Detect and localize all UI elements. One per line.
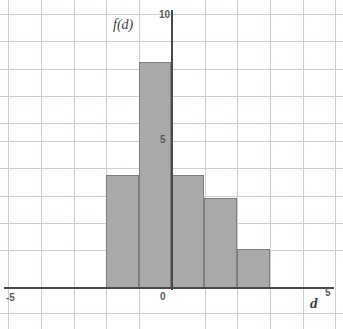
x-tick-label-0: 0 [160, 292, 166, 302]
x-tick-label-neg5: -5 [6, 293, 15, 303]
bar-1 [106, 175, 139, 288]
gridline-vertical [8, 0, 9, 329]
y-tick-label-5: 5 [160, 135, 166, 145]
gridline-vertical [335, 0, 336, 329]
bar-2 [139, 62, 172, 288]
x-axis-title: d [310, 296, 318, 311]
bar-3 [172, 175, 205, 288]
gridline-vertical [41, 0, 42, 329]
gridline-vertical [74, 0, 75, 329]
gridline-horizontal [0, 313, 343, 314]
gridline-vertical [270, 0, 271, 329]
histogram-chart: f(d) 10 5 -5 0 5 d [0, 0, 343, 329]
y-axis-title: f(d) [113, 18, 133, 32]
y-axis-line [171, 10, 173, 290]
x-tick-label-5: 5 [325, 288, 331, 298]
x-axis-line [4, 287, 334, 289]
bar-4 [204, 198, 237, 288]
y-tick-label-10: 10 [159, 10, 170, 20]
gridline-vertical [303, 0, 304, 329]
bar-5 [237, 249, 270, 288]
